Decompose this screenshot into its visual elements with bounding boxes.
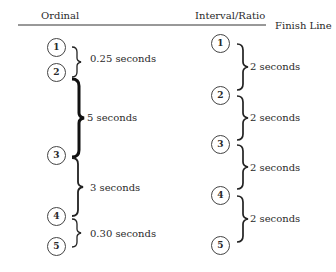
brace-interval-1-2 [237,44,248,90]
brace-ordinal-4-5 [72,219,81,247]
brace-interval-2-3 [237,96,248,140]
brace-ordinal-2-3 [72,79,84,157]
ordinal-runner-5: 5 [47,237,66,256]
interval-gap-3-4: 2 seconds [250,162,300,173]
brace-interval-4-5 [237,196,248,242]
ordinal-runner-4: 4 [47,207,66,226]
ordinal-gap-3-4: 3 seconds [90,182,140,193]
interval-runner-2: 2 [211,86,230,105]
interval-gap-4-5: 2 seconds [250,213,300,224]
interval-runner-5: 5 [211,236,230,255]
ordinal-gap-2-3: 5 seconds [87,112,137,123]
brace-ordinal-1-2 [72,47,81,77]
interval-gap-2-3: 2 seconds [250,112,300,123]
finish-line-label: Finish Line [275,20,332,31]
interval-runner-4: 4 [211,186,230,205]
ordinal-runner-3: 3 [47,146,66,165]
interval-runner-3: 3 [211,135,230,154]
ordinal-header: Ordinal [41,10,79,21]
ordinal-gap-1-2: 0.25 seconds [90,53,156,64]
brace-interval-3-4 [237,145,248,189]
ordinal-runner-2: 2 [47,63,66,82]
brace-ordinal-3-4 [72,158,83,216]
interval-ratio-header: Interval/Ratio [195,10,265,21]
ordinal-gap-4-5: 0.30 seconds [90,228,156,239]
ordinal-runner-1: 1 [47,38,66,57]
interval-runner-1: 1 [211,34,230,53]
interval-gap-1-2: 2 seconds [250,61,300,72]
